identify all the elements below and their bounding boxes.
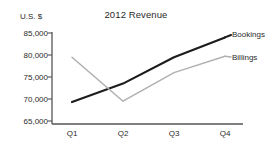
series-connector-billings: [225, 56, 231, 57]
series-label-connectors: [225, 35, 231, 57]
plot-area: [0, 0, 280, 146]
revenue-line-chart: U.S. $ 2012 Revenue 85,000 80,000 75,000…: [0, 0, 280, 146]
series-line-bookings: [72, 37, 225, 102]
y-axis-ticks: [48, 33, 53, 121]
axis-spines: [52, 32, 243, 124]
data-series-lines: [72, 37, 225, 102]
series-connector-bookings: [225, 35, 231, 37]
